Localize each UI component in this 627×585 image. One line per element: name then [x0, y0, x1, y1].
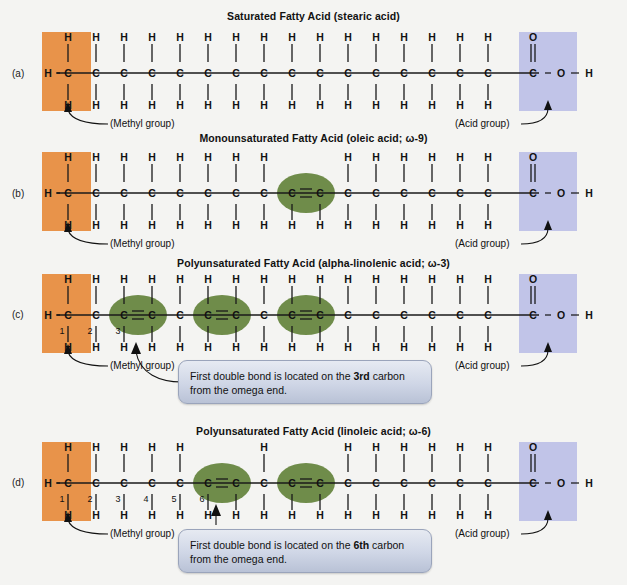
svg-text:H: H [372, 341, 380, 353]
svg-text:H: H [64, 441, 72, 453]
svg-text:C: C [456, 187, 464, 199]
svg-text:H: H [204, 273, 212, 285]
svg-text:H: H [428, 441, 436, 453]
svg-text:C: C [176, 309, 184, 321]
svg-text:C: C [288, 67, 296, 79]
row-c-callout-prefix: First double bond is located on the [190, 370, 353, 382]
svg-text:H: H [456, 341, 464, 353]
svg-text:H: H [428, 99, 436, 111]
svg-text:H: H [176, 441, 184, 453]
svg-text:C: C [428, 187, 436, 199]
svg-text:H: H [484, 151, 492, 163]
svg-text:C: C [148, 309, 156, 321]
svg-text:C: C [204, 187, 212, 199]
row-d-callout-emphasis: 6th [353, 539, 369, 551]
svg-text:C: C [400, 477, 408, 489]
svg-text:H: H [456, 151, 464, 163]
svg-text:O: O [557, 67, 565, 79]
svg-text:H: H [148, 273, 156, 285]
svg-text:H: H [344, 219, 352, 231]
svg-text:H: H [400, 99, 408, 111]
svg-text:H: H [316, 341, 324, 353]
svg-text:H: H [456, 31, 464, 43]
svg-text:H: H [484, 341, 492, 353]
svg-text:C: C [64, 67, 72, 79]
svg-text:H: H [120, 219, 128, 231]
fatty-acid-diagram: Saturated Fatty Acid (stearic acid) (a) [0, 0, 627, 585]
svg-text:C: C [120, 187, 128, 199]
svg-text:H: H [456, 509, 464, 521]
svg-text:3: 3 [115, 494, 120, 504]
svg-text:C: C [484, 477, 492, 489]
svg-text:H: H [372, 273, 380, 285]
svg-text:C: C [148, 67, 156, 79]
svg-text:C: C [204, 477, 212, 489]
svg-text:H: H [44, 309, 52, 321]
svg-text:H: H [120, 441, 128, 453]
svg-text:H: H [92, 441, 100, 453]
svg-text:C: C [456, 477, 464, 489]
svg-text:H: H [288, 509, 296, 521]
svg-text:H: H [372, 99, 380, 111]
svg-text:H: H [288, 31, 296, 43]
row-b-acid-note: (Acid group) [455, 238, 509, 249]
svg-text:H: H [428, 273, 436, 285]
row-c-callout: First double bond is located on the 3rd … [178, 360, 432, 404]
svg-text:H: H [120, 509, 128, 521]
svg-text:H: H [120, 99, 128, 111]
svg-text:H: H [484, 31, 492, 43]
svg-text:H: H [232, 219, 240, 231]
svg-text:C: C [428, 309, 436, 321]
svg-text:C: C [176, 187, 184, 199]
svg-text:C: C [64, 477, 72, 489]
svg-text:H: H [344, 509, 352, 521]
svg-text:H: H [585, 187, 593, 199]
svg-text:C: C [288, 477, 296, 489]
svg-text:H: H [585, 67, 593, 79]
svg-text:H: H [344, 273, 352, 285]
svg-text:H: H [288, 341, 296, 353]
svg-text:H: H [288, 99, 296, 111]
svg-text:C: C [316, 477, 324, 489]
svg-text:H: H [344, 151, 352, 163]
svg-text:H: H [148, 341, 156, 353]
svg-text:H: H [456, 219, 464, 231]
svg-text:H: H [120, 341, 128, 353]
svg-text:C: C [204, 67, 212, 79]
svg-text:2: 2 [87, 494, 92, 504]
svg-text:H: H [92, 273, 100, 285]
svg-text:C: C [456, 67, 464, 79]
svg-text:C: C [344, 67, 352, 79]
svg-text:H: H [260, 441, 268, 453]
svg-text:C: C [529, 309, 537, 321]
svg-text:H: H [260, 31, 268, 43]
svg-text:H: H [585, 309, 593, 321]
svg-text:C: C [288, 309, 296, 321]
diagram-row-c: Polyunsaturated Fatty Acid (alpha-linole… [0, 252, 627, 424]
svg-text:C: C [260, 477, 268, 489]
svg-text:C: C [372, 477, 380, 489]
svg-text:H: H [428, 509, 436, 521]
svg-text:3: 3 [115, 326, 120, 336]
svg-text:H: H [44, 187, 52, 199]
svg-text:C: C [176, 477, 184, 489]
svg-text:2: 2 [87, 326, 92, 336]
svg-text:O: O [557, 187, 565, 199]
diagram-row-a: Saturated Fatty Acid (stearic acid) (a) [0, 0, 627, 140]
svg-text:H: H [428, 31, 436, 43]
svg-text:H: H [204, 509, 212, 521]
svg-text:C: C [260, 309, 268, 321]
svg-text:H: H [204, 99, 212, 111]
svg-text:H: H [204, 151, 212, 163]
svg-text:C: C [92, 309, 100, 321]
svg-text:H: H [484, 99, 492, 111]
svg-text:C: C [92, 187, 100, 199]
row-d-callout-prefix: First double bond is located on the [190, 539, 353, 551]
svg-text:H: H [176, 219, 184, 231]
svg-text:H: H [204, 219, 212, 231]
svg-text:H: H [232, 509, 240, 521]
svg-text:C: C [529, 477, 537, 489]
svg-text:C: C [344, 309, 352, 321]
svg-text:O: O [557, 477, 565, 489]
svg-text:H: H [400, 151, 408, 163]
